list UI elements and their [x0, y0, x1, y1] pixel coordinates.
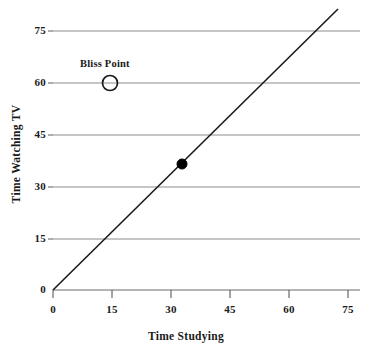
y-tick-label-0: 0 — [22, 283, 46, 295]
x-tick-label-0: 0 — [38, 303, 68, 315]
chart-container: 75 60 45 30 15 0 0 15 30 45 60 75 Bliss … — [0, 0, 372, 349]
data-line-series-budget — [53, 9, 338, 290]
y-tick-label-75: 75 — [22, 24, 46, 36]
bliss-point-label: Bliss Point — [80, 58, 130, 69]
y-tick-label-45: 45 — [22, 128, 46, 140]
x-tick-label-45: 45 — [215, 303, 245, 315]
y-tick-label-60: 60 — [22, 76, 46, 88]
y-axis-ticks — [48, 31, 53, 239]
chart-plot-area — [0, 0, 372, 349]
y-tick-label-30: 30 — [22, 180, 46, 192]
x-tick-label-60: 60 — [274, 303, 304, 315]
x-tick-label-15: 15 — [97, 303, 127, 315]
y-tick-label-15: 15 — [22, 232, 46, 244]
x-axis-ticks — [53, 290, 348, 298]
x-tick-label-75: 75 — [333, 303, 363, 315]
chosen-point-marker — [177, 159, 187, 169]
y-axis-title: Time Watching TV — [10, 84, 22, 224]
x-axis-title: Time Studying — [0, 330, 372, 342]
x-tick-label-30: 30 — [156, 303, 186, 315]
